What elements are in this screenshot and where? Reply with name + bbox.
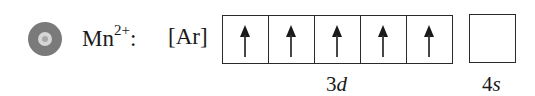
orbital-boxes-3d <box>222 15 453 64</box>
orbital-box-4s <box>469 14 516 63</box>
orbital-box <box>223 16 269 63</box>
orbital-box <box>315 16 361 63</box>
subshell-letter: s <box>493 72 501 96</box>
ion-label: Mn2+: <box>82 24 136 52</box>
orbital-box <box>407 16 452 63</box>
orbital-box <box>269 16 315 63</box>
noble-gas-core: [Ar] <box>168 24 208 50</box>
subshell-label-4s: 4s <box>482 72 501 96</box>
principal-number: 3 <box>326 72 337 96</box>
ion-colon: : <box>130 26 136 51</box>
subshell-letter: d <box>337 72 348 96</box>
ion-symbol: Mn <box>82 26 114 51</box>
principal-number: 4 <box>482 72 493 96</box>
subshell-label-3d: 3d <box>326 72 347 96</box>
disc-bullet-icon <box>28 22 62 56</box>
ion-charge: 2+ <box>114 22 130 38</box>
orbital-box <box>361 16 407 63</box>
